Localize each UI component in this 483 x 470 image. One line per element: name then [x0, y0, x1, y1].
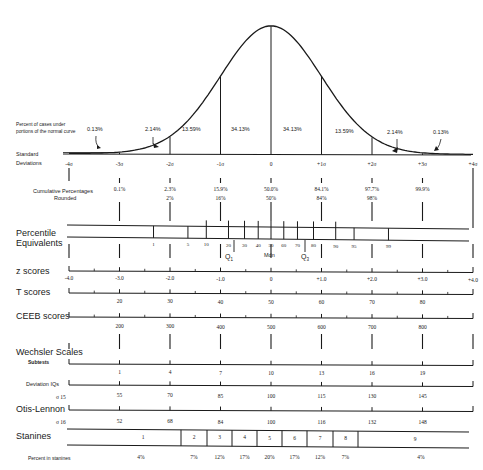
axis-label: 1 — [118, 369, 121, 375]
rounded-value: 98% — [367, 195, 378, 201]
cumulative-value: 99.9% — [415, 186, 430, 192]
stanine-percent: 17% — [239, 454, 250, 460]
percentile-value: 1 — [152, 242, 155, 247]
deviation-iq-axis: 557085100115130145 — [69, 380, 473, 399]
percentile-label-line2: Equivalents — [16, 238, 63, 248]
sd-dividers — [120, 26, 423, 154]
axis-label: 148 — [418, 419, 427, 425]
axis-label: 50 — [268, 299, 274, 305]
sd-tick: -2σ — [166, 161, 174, 167]
sd-tick: +1σ — [317, 161, 326, 167]
percentile-value: 50 — [269, 243, 275, 248]
axis-label: 85 — [218, 393, 224, 399]
segment-pct-6: 2.14% — [387, 129, 403, 135]
stanine-percent: 7% — [190, 454, 198, 460]
segment-pct-3: 34.13% — [231, 126, 250, 132]
segment-pct-5: 13.59% — [335, 128, 354, 134]
stanine-percent: 17% — [289, 454, 300, 460]
stanine-value: 4 — [243, 434, 246, 440]
sd-tick: +4σ — [469, 161, 478, 167]
rounded-value: 84% — [316, 195, 327, 201]
sd-tick: 0 — [270, 161, 273, 167]
curve-baseline — [63, 154, 471, 155]
rounded-label: Rounded — [54, 195, 76, 201]
axis-label: 600 — [317, 324, 326, 330]
axis-label: +4.0 — [468, 277, 478, 283]
percentile-label-line1: Percentile — [16, 228, 56, 238]
stanine-band: 123456789 — [67, 429, 469, 448]
axis-label: +1.0 — [317, 276, 327, 282]
axis-label: 20 — [117, 298, 123, 304]
percentile-value: 80 — [311, 243, 317, 248]
axis-label: 68 — [167, 418, 173, 424]
median-label: Mdn — [264, 252, 275, 258]
stanine-value: 1 — [142, 434, 145, 440]
stanine-percent: 20% — [264, 454, 275, 460]
sd-tick: -4σ — [65, 161, 73, 167]
stanine-percent: 4% — [417, 454, 425, 460]
cumulative-value: 84.1% — [314, 186, 329, 192]
axis-label: +2.0 — [367, 276, 377, 282]
q3-label: Q3 — [301, 253, 309, 262]
cumulative-value: 15.9% — [213, 186, 228, 192]
otis-lennon-label: Otis-Lennon — [16, 404, 65, 414]
arrow-icon — [437, 139, 441, 149]
stanine-percents: 4%7%12%17%20%17%12%7%4% — [137, 454, 425, 460]
otis-sigma-label: σ 16 — [56, 419, 66, 425]
percentile-value: 10 — [204, 242, 210, 247]
sd-label-line2: Deviations — [16, 160, 42, 166]
cumulative-label: Cumulative Percentages — [33, 188, 93, 194]
axis-label: 130 — [368, 393, 377, 399]
axis-label: 145 — [418, 393, 427, 399]
stanine-percent: 12% — [214, 454, 225, 460]
axis-label: 400 — [216, 324, 225, 330]
stanine-percent: 12% — [315, 454, 326, 460]
t-scores-axis: 20304050607080 — [69, 288, 473, 305]
rounded-value: 16% — [215, 195, 226, 201]
percentile-value: 60 — [281, 243, 287, 248]
rounded-values: 2%16%50%84%98% — [166, 195, 377, 201]
stanine-value: 3 — [218, 434, 221, 440]
axis-label: 0 — [270, 276, 273, 282]
normal-curve-diagram: 0.13% 2.14% 13.59% 34.13% 34.13% 13.59% … — [0, 0, 483, 470]
axis-label: 100 — [267, 393, 276, 399]
sd-tick: +3σ — [418, 161, 427, 167]
axis-label: 132 — [368, 419, 377, 425]
axis-label: 30 — [167, 298, 173, 304]
subtests-label: Subtests — [28, 359, 49, 365]
axis-label: 13 — [319, 370, 325, 376]
stanine-value: 7 — [319, 435, 322, 441]
rounded-value: 50% — [266, 195, 277, 201]
t-scores-label: T scores — [16, 287, 51, 297]
stanine-percent: 4% — [137, 454, 145, 460]
stanine-value: 8 — [344, 435, 347, 441]
percent-in-stanines-label: Percent in stanines — [28, 455, 71, 461]
deviation-sigma-label: σ 15 — [56, 394, 66, 400]
sd-label-line1: Standard — [16, 151, 38, 157]
axis-label: 700 — [368, 324, 377, 330]
sd-tick: -1σ — [217, 161, 225, 167]
stanine-value: 5 — [268, 435, 271, 441]
normal-curve: 0.13% 2.14% 13.59% 34.13% 34.13% 13.59% … — [63, 26, 473, 155]
arrow-head-icon — [97, 145, 101, 149]
stanines-label: Stanines — [16, 431, 52, 441]
stanine-value: 2 — [193, 434, 196, 440]
axis-label: 115 — [317, 393, 325, 399]
axis-label: 80 — [420, 299, 426, 305]
axis-label: 40 — [218, 299, 224, 305]
percentile-value: 5 — [187, 242, 190, 247]
axis-label: 70 — [369, 299, 375, 305]
stanine-percent: 7% — [342, 454, 350, 460]
subtests-axis: 14710131619 — [69, 359, 473, 376]
axis-label: 60 — [319, 299, 325, 305]
cumulative-value: 50.0% — [264, 186, 279, 192]
axis-label: 55 — [117, 392, 123, 398]
percentile-band: 151020304050607080909599 — [67, 220, 469, 249]
stanine-value: 6 — [293, 435, 296, 441]
percentile-value: 99 — [386, 244, 392, 249]
cumulative-value: 0.1% — [114, 186, 126, 192]
segment-pct-0: 0.13% — [87, 126, 103, 132]
ceeb-scores-label: CEEB scores — [16, 311, 70, 321]
wechsler-label: Wechsler Scales — [16, 347, 83, 357]
tail-arrow-icons — [96, 136, 441, 153]
